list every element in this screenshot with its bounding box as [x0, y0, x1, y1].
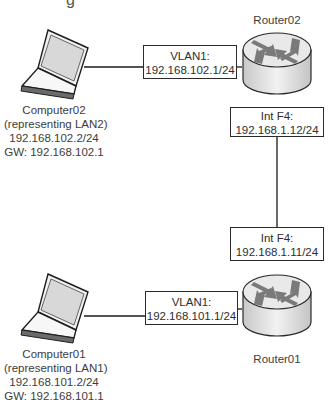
computer02-gateway: GW: 192.168.102.1: [4, 145, 104, 159]
router02-icon[interactable]: [240, 28, 314, 102]
router02-label: Router02: [245, 13, 309, 27]
router01-icon[interactable]: [240, 270, 314, 344]
interface-name: Int F4:: [231, 109, 323, 123]
router02-f4-box: Int F4: 192.168.1.12/24: [230, 107, 324, 137]
computer01-gateway: GW: 192.168.101.1: [4, 389, 104, 403]
interface-ip: 192.168.101.1/24: [146, 309, 237, 323]
computer02-role: (representing LAN2): [4, 117, 104, 131]
router01-label: Router01: [245, 352, 309, 366]
interface-name: VLAN1:: [146, 295, 237, 309]
router01-vlan1-box: VLAN1: 192.168.101.1/24: [145, 291, 238, 325]
computer02-name: Computer02: [4, 103, 104, 117]
computer02-ip: 192.168.102.2/24: [4, 131, 104, 145]
computer01-name: Computer01: [4, 347, 104, 361]
computer01-ip: 192.168.101.2/24: [4, 375, 104, 389]
interface-ip: 192.168.1.11/24: [231, 245, 323, 259]
interface-ip: 192.168.1.12/24: [231, 123, 323, 137]
interface-name: VLAN1:: [144, 49, 236, 63]
interface-ip: 192.168.102.1/24: [144, 63, 236, 77]
computer02-laptop-icon[interactable]: [18, 28, 90, 102]
router02-vlan1-box: VLAN1: 192.168.102.1/24: [143, 45, 237, 79]
computer01-laptop-icon[interactable]: [18, 272, 90, 346]
router01-f4-box: Int F4: 192.168.1.11/24: [230, 227, 324, 261]
interface-name: Int F4:: [231, 231, 323, 245]
computer01-role: (representing LAN1): [4, 361, 104, 375]
